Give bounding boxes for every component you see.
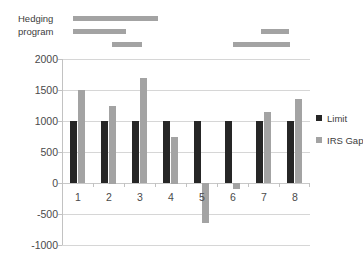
bar-limit-1[interactable]: [70, 121, 77, 183]
y-tick-2000: [58, 59, 62, 60]
x-axis-label-2: 2: [99, 190, 119, 204]
gridline-1500: [62, 90, 310, 91]
y-axis-label--500: -500: [12, 209, 58, 219]
y-tick-1500: [58, 90, 62, 91]
bar-irs-gap-1[interactable]: [78, 90, 85, 183]
x-tick-end: [309, 183, 310, 187]
hedging-segment-row3-a: [112, 42, 142, 47]
bar-limit-6[interactable]: [225, 121, 232, 183]
y-axis-label-2000: 2000: [12, 54, 58, 64]
legend-item-irs-gap[interactable]: IRS Gap: [316, 132, 362, 148]
hedging-segment-row1-a: [73, 16, 158, 21]
gridline-2000: [62, 59, 310, 60]
y-tick--500: [58, 214, 62, 215]
x-axis-labels: 12345678: [62, 190, 310, 206]
x-axis-label-4: 4: [161, 190, 181, 204]
chart-legend: LimitIRS Gap: [316, 110, 362, 154]
bar-irs-gap-8[interactable]: [295, 99, 302, 183]
gridline-500: [62, 152, 310, 153]
x-tick-2: [93, 183, 94, 187]
x-tick-3: [124, 183, 125, 187]
bar-limit-2[interactable]: [101, 121, 108, 183]
x-axis-label-6: 6: [223, 190, 243, 204]
x-tick-1: [62, 183, 63, 187]
y-axis-label-1500: 1500: [12, 85, 58, 95]
hedging-program-label-line2: program: [18, 26, 74, 38]
x-tick-5: [186, 183, 187, 187]
y-tick-1000: [58, 121, 62, 122]
legend-label: IRS Gap: [327, 135, 363, 146]
x-axis-label-1: 1: [68, 190, 88, 204]
legend-swatch-icon: [316, 137, 322, 143]
bar-limit-7[interactable]: [256, 121, 263, 183]
x-axis-label-5: 5: [192, 190, 212, 204]
hedging-segment-row3-b: [233, 42, 290, 47]
bar-limit-3[interactable]: [132, 121, 139, 183]
x-tick-4: [155, 183, 156, 187]
bar-irs-gap-6[interactable]: [233, 183, 240, 189]
bar-irs-gap-3[interactable]: [140, 78, 147, 183]
x-tick-8: [279, 183, 280, 187]
y-tick-500: [58, 152, 62, 153]
legend-swatch-icon: [316, 115, 322, 121]
hedging-segment-row2-a: [73, 29, 126, 34]
bar-irs-gap-2[interactable]: [109, 106, 116, 184]
x-axis-label-3: 3: [130, 190, 150, 204]
legend-label: Limit: [327, 113, 347, 124]
y-tick--1000: [58, 245, 62, 246]
y-axis-label-1000: 1000: [12, 116, 58, 126]
bar-limit-8[interactable]: [287, 121, 294, 183]
y-axis-label-0: 0: [12, 178, 58, 188]
bar-limit-5[interactable]: [194, 121, 201, 183]
y-axis-label--1000: -1000: [12, 240, 58, 250]
bar-irs-gap-4[interactable]: [171, 137, 178, 184]
x-axis-label-8: 8: [285, 190, 305, 204]
y-axis-label-500: 500: [12, 147, 58, 157]
hedging-program-annotation: Hedging program: [0, 0, 362, 52]
bar-limit-4[interactable]: [163, 121, 170, 183]
x-tick-6: [217, 183, 218, 187]
legend-item-limit[interactable]: Limit: [316, 110, 362, 126]
gridline-1000: [62, 121, 310, 122]
x-tick-7: [248, 183, 249, 187]
y-axis-line: [62, 59, 63, 245]
x-axis-label-7: 7: [254, 190, 274, 204]
gridline--500: [62, 214, 310, 215]
bar-irs-gap-7[interactable]: [264, 112, 271, 183]
hedging-program-label-line1: Hedging: [18, 13, 74, 25]
hedging-segment-row2-b: [261, 29, 289, 34]
gridline--1000: [62, 245, 310, 246]
y-axis-labels: 2000150010005000-500-1000: [8, 59, 58, 245]
plot-area: [62, 59, 310, 245]
